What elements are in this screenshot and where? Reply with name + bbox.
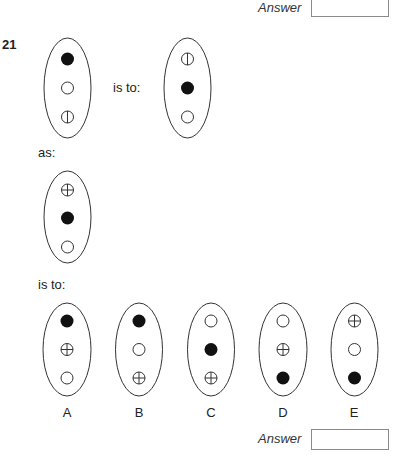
is-to-label-2: is to: (38, 277, 65, 292)
source-oval (44, 38, 91, 138)
empty-circle-icon (62, 241, 74, 253)
cross-circle-icon (349, 315, 361, 327)
option-d-label[interactable]: D (273, 405, 293, 420)
option-d-oval (259, 303, 307, 396)
empty-circle-icon (62, 82, 74, 94)
empty-circle-icon (205, 315, 217, 327)
is-to-label-1: is to: (113, 80, 140, 95)
option-e-oval (331, 303, 378, 396)
option-c-label[interactable]: C (201, 405, 221, 420)
empty-circle-icon (277, 315, 289, 327)
bottom-answer-box[interactable] (311, 429, 389, 450)
option-b-label[interactable]: B (129, 405, 149, 420)
filled-circle-icon (61, 315, 74, 328)
cross-circle-icon (277, 344, 289, 356)
figure-source (0, 0, 393, 471)
empty-circle-icon (61, 372, 73, 384)
filled-circle-icon (133, 315, 146, 328)
option-a-oval (43, 303, 91, 396)
option-b-oval (116, 303, 163, 396)
option-a-label[interactable]: A (57, 405, 77, 420)
empty-circle-icon (349, 344, 361, 356)
bottom-answer-label: Answer (258, 431, 301, 446)
cross-circle-icon (62, 184, 74, 196)
target-oval (44, 171, 91, 263)
filled-circle-icon (205, 343, 218, 356)
filled-circle-icon (348, 372, 361, 385)
cross-circle-icon (205, 372, 217, 384)
option-c-oval (188, 303, 235, 396)
filled-circle-icon (181, 82, 194, 95)
filled-circle-icon (61, 53, 74, 66)
vertical-line-circle-icon (62, 111, 74, 123)
cross-circle-icon (133, 372, 145, 384)
filled-circle-icon (277, 372, 290, 385)
vertical-line-circle-icon (182, 53, 194, 65)
empty-circle-icon (182, 111, 194, 123)
as-label: as: (38, 145, 55, 160)
cross-circle-icon (61, 344, 73, 356)
option-e-label[interactable]: E (344, 405, 364, 420)
filled-circle-icon (61, 212, 74, 225)
source-result-oval (164, 38, 211, 138)
empty-circle-icon (133, 344, 145, 356)
